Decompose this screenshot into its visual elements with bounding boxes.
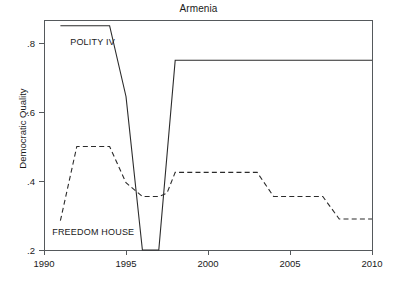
y-tick-label-0.6: .6 <box>27 107 35 118</box>
x-tick-label-1990: 1990 <box>33 258 54 269</box>
y-tick-label-0.4: .4 <box>27 176 35 187</box>
x-tick-label-2005: 2005 <box>279 258 300 269</box>
x-tick-label-2000: 2000 <box>197 258 218 269</box>
chart-figure: Armenia Democratic Quality .8 .6 .4 .2 <box>0 0 397 283</box>
series-line-polity-iv <box>60 26 372 250</box>
plot-frame <box>44 20 372 250</box>
series-label-polity-iv: POLITY IV <box>70 37 115 47</box>
x-axis-tick-labels: 1990 1995 2000 2005 2010 <box>33 258 382 269</box>
plot-area: .8 .6 .4 .2 1990 1995 2000 2005 2010 POL… <box>0 0 397 283</box>
y-tick-label-0.2: .2 <box>27 245 35 256</box>
x-tick-label-1995: 1995 <box>115 258 136 269</box>
x-axis-ticks <box>44 250 372 255</box>
y-axis-ticks <box>39 43 44 250</box>
y-axis-tick-labels: .8 .6 .4 .2 <box>27 38 35 256</box>
series-label-freedom-house: FREEDOM HOUSE <box>52 227 134 237</box>
series-line-freedom-house <box>60 147 372 221</box>
x-tick-label-2010: 2010 <box>361 258 382 269</box>
y-tick-label-0.8: .8 <box>27 38 35 49</box>
